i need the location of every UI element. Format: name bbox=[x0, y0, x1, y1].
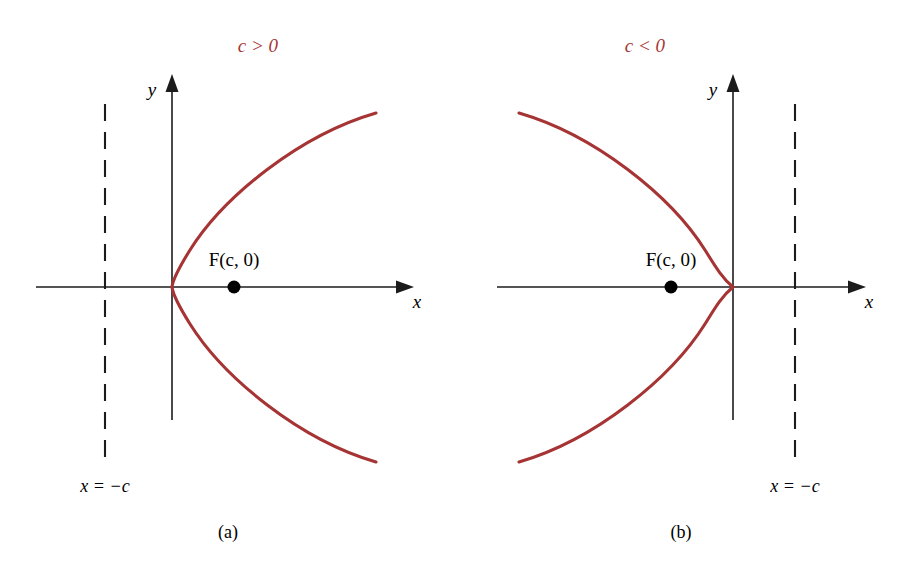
panel-a-condition-label: c > 0 bbox=[238, 35, 279, 56]
panel-a-focus-point bbox=[228, 281, 241, 294]
panel-a: c > 0 x y x = −c F(c, 0) (a) bbox=[36, 35, 422, 543]
panel-a-x-axis-label: x bbox=[412, 291, 422, 312]
panel-a-x-axis-arrow-icon bbox=[396, 281, 414, 294]
parabola-figure: c > 0 x y x = −c F(c, 0) (a) c < 0 x y bbox=[0, 0, 903, 578]
panel-b-y-axis-arrow-icon bbox=[727, 74, 740, 92]
panel-a-y-axis-label: y bbox=[146, 79, 157, 100]
panel-b-directrix-label: x = −c bbox=[769, 476, 819, 496]
panel-b-y-axis-label: y bbox=[707, 79, 718, 100]
panel-a-focus-label: F(c, 0) bbox=[209, 249, 260, 271]
panel-b-x-axis-label: x bbox=[864, 291, 874, 312]
panel-b-focus-label: F(c, 0) bbox=[646, 249, 697, 271]
panel-b-condition-label: c < 0 bbox=[625, 35, 666, 56]
panel-b: c < 0 x y x = −c F(c, 0) (b) bbox=[497, 35, 874, 543]
panel-b-focus-point bbox=[665, 281, 678, 294]
panel-a-directrix-label: x = −c bbox=[79, 476, 129, 496]
panel-a-y-axis-arrow-icon bbox=[166, 74, 179, 92]
panel-b-x-axis-arrow-icon bbox=[848, 281, 866, 294]
panel-b-caption: (b) bbox=[671, 522, 692, 543]
panel-a-caption: (a) bbox=[218, 522, 238, 543]
